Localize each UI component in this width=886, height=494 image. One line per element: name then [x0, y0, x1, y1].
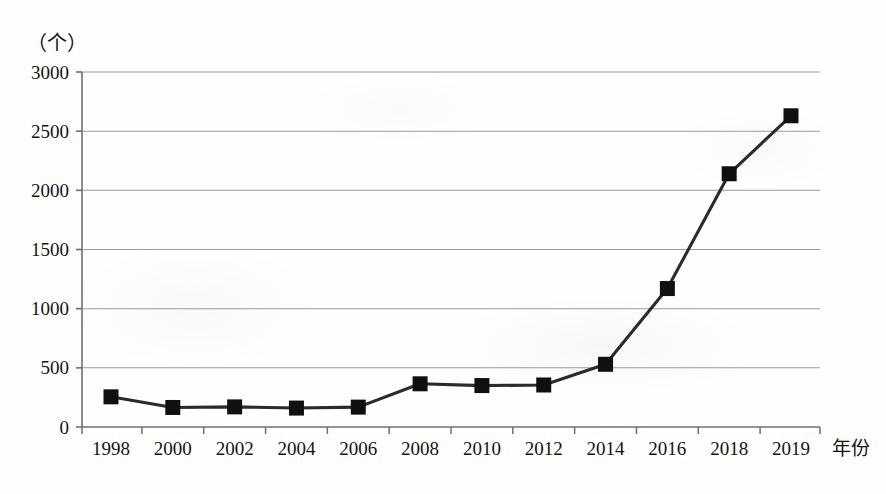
data-point-marker — [598, 357, 613, 372]
x-axis-tick-labels-group: 1998200020022004200620082010201220142016… — [92, 438, 810, 459]
data-point-marker — [289, 401, 304, 416]
x-tick-label: 2016 — [648, 438, 686, 459]
data-point-marker — [722, 166, 737, 181]
y-tick-label: 3000 — [31, 62, 69, 83]
data-point-markers-group — [104, 108, 799, 415]
x-tick-label: 2019 — [772, 438, 810, 459]
y-axis-tick-labels-group: 050010001500200025003000 — [31, 62, 69, 438]
data-point-marker — [351, 400, 366, 415]
gridlines-group — [82, 72, 820, 368]
line-chart: 050010001500200025003000 199820002002200… — [0, 0, 886, 494]
y-tick-label: 1000 — [31, 298, 69, 319]
y-tick-label: 2000 — [31, 180, 69, 201]
x-tick-label: 1998 — [92, 438, 130, 459]
data-point-marker — [104, 389, 119, 404]
x-tick-label: 2002 — [216, 438, 254, 459]
x-tick-label: 2008 — [401, 438, 439, 459]
data-series-line — [111, 116, 791, 408]
data-point-marker — [660, 281, 675, 296]
x-tick-label: 2004 — [277, 438, 316, 459]
x-tick-label: 2000 — [154, 438, 192, 459]
data-point-marker — [413, 376, 428, 391]
data-point-marker — [227, 399, 242, 414]
data-point-marker — [165, 400, 180, 415]
data-point-marker — [536, 377, 551, 392]
y-tick-label: 500 — [41, 357, 70, 378]
x-axis-name-label: 年份 — [832, 438, 870, 459]
x-tick-label: 2006 — [339, 438, 377, 459]
data-point-marker — [474, 378, 489, 393]
x-tick-label: 2018 — [710, 438, 748, 459]
x-tick-label: 2012 — [525, 438, 563, 459]
y-tick-label: 1500 — [31, 239, 69, 260]
x-tick-label: 2010 — [463, 438, 501, 459]
chart-page: （个） 050010001500200025003000 19982000200… — [0, 0, 886, 494]
x-tick-marks-group — [82, 427, 820, 434]
y-tick-label: 0 — [60, 417, 70, 438]
x-tick-label: 2014 — [587, 438, 626, 459]
y-tick-label: 2500 — [31, 121, 69, 142]
y-tick-marks-group — [76, 72, 82, 427]
data-point-marker — [784, 108, 799, 123]
